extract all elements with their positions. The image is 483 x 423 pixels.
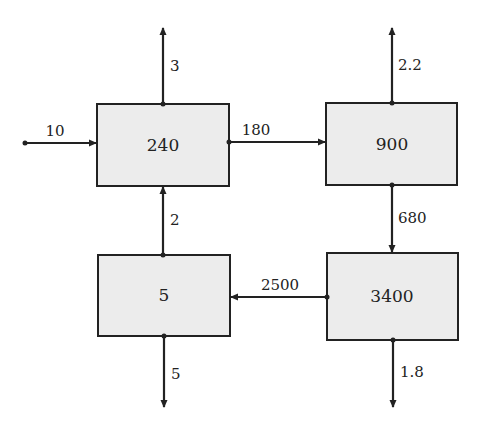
flow-out-1-8: 1.8 (391, 338, 424, 408)
flow-label-1-8: 1.8 (400, 363, 424, 381)
box-5-label: 5 (159, 285, 170, 305)
flow-out-5: 5 (162, 334, 181, 408)
flow-label-2-2: 2.2 (398, 56, 422, 74)
flow-label-2: 2 (170, 211, 180, 229)
box-5: 5 (98, 255, 230, 336)
flow-out-3: 3 (161, 28, 180, 107)
flow-2500: 2500 (231, 276, 330, 300)
flow-label-2500: 2500 (261, 276, 299, 294)
flow-label-3: 3 (170, 57, 180, 75)
box-240-label: 240 (147, 135, 179, 155)
box-900-label: 900 (376, 134, 408, 154)
flow-680: 680 (390, 183, 427, 253)
compartment-flow-diagram: 240 900 5 3400 10 3 180 2.2 680 (0, 0, 483, 423)
box-900: 900 (326, 103, 457, 185)
flow-label-5: 5 (171, 365, 181, 383)
flow-2: 2 (161, 187, 180, 258)
flow-label-10: 10 (45, 122, 64, 140)
flow-in-10: 10 (23, 122, 97, 146)
box-240: 240 (97, 104, 229, 186)
flow-label-680: 680 (398, 209, 427, 227)
flow-180: 180 (227, 121, 326, 145)
flow-out-2-2: 2.2 (390, 28, 422, 106)
flow-label-180: 180 (242, 121, 271, 139)
box-3400-label: 3400 (370, 286, 413, 306)
box-3400: 3400 (327, 253, 458, 340)
